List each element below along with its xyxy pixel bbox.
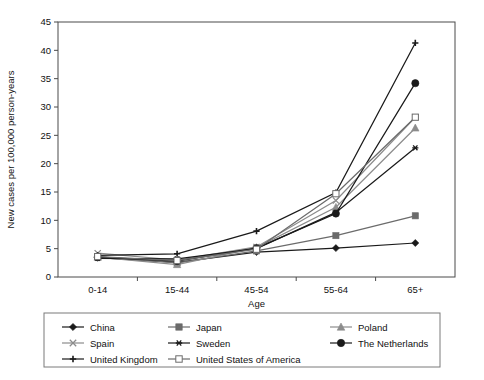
y-axis-title: New cases per 100,000 person-years xyxy=(5,70,16,228)
marker-filled-circle xyxy=(332,210,339,217)
y-tick-label: 30 xyxy=(40,101,51,112)
y-tick-label: 40 xyxy=(40,45,51,56)
y-tick-label: 25 xyxy=(40,130,51,141)
x-tick-label: 45-54 xyxy=(244,284,268,295)
marker-open-square xyxy=(333,191,339,197)
legend-label: United Kingdom xyxy=(90,354,158,365)
x-tick-label: 15-44 xyxy=(165,284,189,295)
x-tick-label: 0-14 xyxy=(88,284,107,295)
x-tick-label: 65+ xyxy=(407,284,424,295)
chart-legend: ChinaJapanPolandSpainSwedenThe Netherlan… xyxy=(44,313,440,367)
marker-open-square xyxy=(412,114,418,120)
legend-label: China xyxy=(90,322,116,333)
marker-open-square xyxy=(253,246,259,252)
legend-label: Japan xyxy=(196,322,222,333)
chart-figure: 051015202530354045 0-1415-4445-5455-6465… xyxy=(0,0,484,380)
marker-open-square xyxy=(176,356,182,362)
marker-open-square xyxy=(174,257,180,263)
y-tick-label: 15 xyxy=(40,186,51,197)
y-tick-label: 20 xyxy=(40,158,51,169)
legend-label: Sweden xyxy=(196,338,230,349)
y-tick-label: 5 xyxy=(46,243,51,254)
marker-filled-square xyxy=(176,324,182,330)
y-tick-label: 0 xyxy=(46,271,51,282)
marker-filled-square xyxy=(412,213,418,219)
legend-label: The Netherlands xyxy=(358,338,428,349)
marker-filled-square xyxy=(333,233,339,239)
marker-filled-circle xyxy=(337,339,344,346)
legend-label: Poland xyxy=(358,322,388,333)
x-tick-label: 55-64 xyxy=(324,284,348,295)
legend-label: United States of America xyxy=(196,354,301,365)
y-tick-label: 45 xyxy=(40,16,51,27)
x-axis-title: Age xyxy=(248,298,265,309)
y-tick-label: 10 xyxy=(40,215,51,226)
marker-filled-circle xyxy=(412,80,419,87)
line-chart: 051015202530354045 0-1415-4445-5455-6465… xyxy=(0,0,484,380)
y-tick-label: 35 xyxy=(40,73,51,84)
legend-label: Spain xyxy=(90,338,114,349)
marker-open-square xyxy=(95,254,101,260)
